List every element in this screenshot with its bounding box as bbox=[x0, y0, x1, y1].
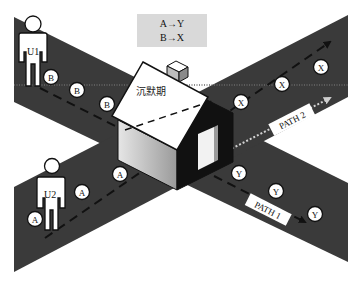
svg-text:Y: Y bbox=[236, 169, 243, 179]
packet-a-2: A bbox=[75, 185, 90, 200]
network-diagram: 沉默期 U1 U2 B B B X bbox=[0, 0, 359, 282]
svg-text:X: X bbox=[238, 98, 245, 108]
packet-y-3: Y bbox=[308, 207, 323, 222]
packet-x-1: X bbox=[234, 95, 249, 110]
packet-y-1: Y bbox=[232, 166, 247, 181]
packet-b-2: B bbox=[70, 83, 85, 98]
user-u1-label: U1 bbox=[27, 46, 39, 57]
packet-x-2: X bbox=[275, 77, 290, 92]
svg-text:A: A bbox=[79, 188, 86, 198]
packet-a-3: A bbox=[113, 167, 128, 182]
svg-text:Y: Y bbox=[273, 187, 280, 197]
svg-text:B: B bbox=[48, 73, 54, 83]
packet-b-3: B bbox=[100, 97, 115, 112]
packet-a-1: A bbox=[28, 212, 43, 227]
svg-text:A: A bbox=[117, 170, 124, 180]
svg-text:A: A bbox=[32, 215, 39, 225]
svg-text:X: X bbox=[318, 63, 325, 73]
legend-line-b-to-x: B→X bbox=[160, 31, 184, 45]
legend-line-a-to-y: A→Y bbox=[160, 17, 184, 31]
user-u1-head bbox=[25, 16, 41, 32]
house-label: 沉默期 bbox=[136, 85, 166, 97]
user-u2-head bbox=[45, 159, 60, 174]
legend-box: A→Y B→X bbox=[137, 14, 207, 47]
packet-b-1: B bbox=[44, 70, 59, 85]
svg-text:B: B bbox=[104, 100, 110, 110]
user-u2-label: U2 bbox=[44, 189, 56, 200]
svg-text:B: B bbox=[74, 86, 80, 96]
svg-text:Y: Y bbox=[312, 210, 319, 220]
svg-text:X: X bbox=[279, 80, 286, 90]
packet-x-3: X bbox=[314, 60, 329, 75]
packet-y-2: Y bbox=[269, 184, 284, 199]
